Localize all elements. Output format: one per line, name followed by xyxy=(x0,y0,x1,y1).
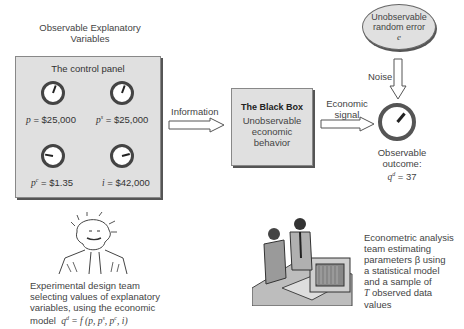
black-box-body: Unobservable economic behavior xyxy=(232,115,312,148)
gauge-label-p: p = $25,000 xyxy=(26,114,76,125)
gauge-icon-i xyxy=(110,144,134,168)
gauge-icon-p xyxy=(41,81,65,105)
information-arrow-icon xyxy=(168,117,226,133)
experimental-team-caption: Experimental design team selecting value… xyxy=(30,280,195,327)
random-error-ellipse: Unobservable random error e xyxy=(362,4,436,50)
noise-arrow-icon xyxy=(389,58,407,100)
gauge-label-i: i = $42,000 xyxy=(102,177,150,188)
gauge-label-ps: ps = $25,000 xyxy=(96,114,148,125)
heading-line-1: Observable Explanatory xyxy=(20,22,160,33)
outcome-label: Observable outcome: qd = 37 xyxy=(360,147,444,183)
gauge-label-pc: pc = $1.35 xyxy=(31,177,73,188)
information-label: Information xyxy=(171,106,219,117)
explanatory-heading: Observable Explanatory Variables xyxy=(20,22,160,44)
analysts-computer-icon xyxy=(252,218,362,306)
outcome-gauge-icon xyxy=(378,103,416,141)
black-box-title: The Black Box xyxy=(232,102,312,112)
black-box: The Black Box Unobservable economic beha… xyxy=(231,88,313,166)
gauge-icon-pc xyxy=(41,144,65,168)
control-panel-title: The control panel xyxy=(16,63,160,74)
gauge-icon-ps xyxy=(110,81,134,105)
econometric-team-caption: Econometric analysis team estimating par… xyxy=(364,232,464,310)
signal-arrow-icon xyxy=(320,116,376,132)
control-panel: The control panel p = $25,000 ps = $25,0… xyxy=(15,56,161,198)
heading-line-2: Variables xyxy=(20,33,160,44)
economist-portrait-icon xyxy=(55,212,130,274)
